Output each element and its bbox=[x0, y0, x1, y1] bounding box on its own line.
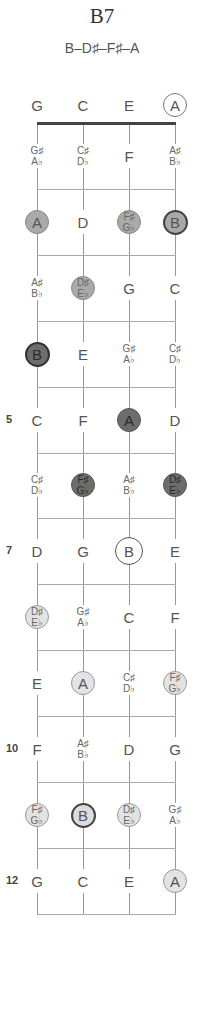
note-name: F♯ bbox=[123, 212, 134, 222]
fret-line bbox=[37, 584, 176, 585]
note-marker: F♯G♭ bbox=[117, 210, 141, 234]
note-name: D♯ bbox=[77, 278, 89, 288]
note-label: G bbox=[26, 93, 48, 117]
note-name: C bbox=[170, 281, 181, 296]
note-name: E♭ bbox=[31, 618, 43, 628]
note-name: A♭ bbox=[169, 816, 181, 826]
note-label: F bbox=[164, 605, 186, 629]
note-label: C♯D♭ bbox=[26, 473, 48, 497]
note-name: F bbox=[78, 413, 87, 428]
fret-line bbox=[37, 914, 176, 915]
note-label: A♯B♭ bbox=[118, 473, 140, 497]
note-name: G♯ bbox=[169, 805, 182, 815]
fret-number: 10 bbox=[6, 742, 22, 754]
note-marker: A bbox=[163, 93, 187, 117]
fret-number: 7 bbox=[6, 544, 22, 556]
fret-line bbox=[37, 716, 176, 717]
note-label: G♯A♭ bbox=[72, 605, 94, 629]
note-name: C♯ bbox=[169, 344, 181, 354]
note-name: A♯ bbox=[169, 146, 181, 156]
note-name: G bbox=[169, 742, 181, 757]
note-name: G bbox=[123, 281, 135, 296]
note-marker: F♯G♭ bbox=[163, 671, 187, 695]
note-name: G♯ bbox=[31, 146, 44, 156]
note-name: E bbox=[78, 347, 88, 362]
note-name: D♭ bbox=[169, 355, 181, 365]
note-name: C♯ bbox=[123, 673, 135, 683]
note-name: B bbox=[170, 215, 180, 230]
fret-line bbox=[37, 848, 176, 849]
note-name: F bbox=[32, 742, 41, 757]
note-label: G♯A♭ bbox=[118, 342, 140, 366]
note-name: G♯ bbox=[123, 344, 136, 354]
note-label: C♯D♭ bbox=[164, 342, 186, 366]
note-name: G♯ bbox=[77, 607, 90, 617]
note-name: C bbox=[124, 610, 135, 625]
note-label: G bbox=[26, 869, 48, 893]
note-marker: F♯G♭ bbox=[71, 473, 95, 497]
note-name: E♭ bbox=[123, 816, 135, 826]
note-name: G♭ bbox=[77, 486, 90, 496]
note-marker: B bbox=[25, 342, 50, 367]
note-marker: A bbox=[163, 869, 187, 893]
note-name: D♭ bbox=[123, 684, 135, 694]
note-name: D bbox=[124, 742, 135, 757]
note-marker: B bbox=[163, 210, 188, 235]
note-name: D♯ bbox=[169, 475, 181, 485]
note-marker: D♯E♭ bbox=[163, 473, 187, 497]
note-label: C bbox=[72, 869, 94, 893]
note-name: D♭ bbox=[77, 157, 89, 167]
note-label: F bbox=[72, 408, 94, 432]
note-name: A bbox=[78, 676, 88, 691]
note-name: G♭ bbox=[123, 223, 136, 233]
note-label: C bbox=[26, 408, 48, 432]
note-label: A♯B♭ bbox=[26, 276, 48, 300]
note-name: G bbox=[31, 98, 43, 113]
note-label: G♯A♭ bbox=[164, 803, 186, 827]
note-label: C bbox=[164, 276, 186, 300]
note-label: A♯B♭ bbox=[164, 144, 186, 168]
note-label: E bbox=[164, 539, 186, 563]
note-label: F bbox=[26, 737, 48, 761]
note-name: D♯ bbox=[31, 607, 43, 617]
note-name: E bbox=[124, 874, 134, 889]
note-label: D bbox=[164, 408, 186, 432]
note-name: E♭ bbox=[169, 486, 181, 496]
note-marker: D♯E♭ bbox=[25, 605, 49, 629]
note-name: A bbox=[32, 215, 42, 230]
note-name: A♭ bbox=[123, 355, 135, 365]
fret-line bbox=[37, 387, 176, 388]
note-name: B♭ bbox=[31, 289, 43, 299]
note-name: C bbox=[78, 98, 89, 113]
note-name: C♯ bbox=[77, 146, 89, 156]
note-label: G♯A♭ bbox=[26, 144, 48, 168]
note-label: E bbox=[118, 93, 140, 117]
note-label: G bbox=[72, 539, 94, 563]
note-name: F♯ bbox=[77, 475, 88, 485]
note-marker: B bbox=[115, 537, 143, 565]
note-marker: A bbox=[117, 408, 141, 432]
note-label: E bbox=[72, 342, 94, 366]
fret-number: 5 bbox=[6, 413, 22, 425]
note-name: F bbox=[124, 149, 133, 164]
note-label: C bbox=[118, 605, 140, 629]
note-name: G bbox=[31, 874, 43, 889]
note-name: G♭ bbox=[169, 684, 182, 694]
note-name: C♯ bbox=[31, 475, 43, 485]
note-name: E bbox=[124, 98, 134, 113]
fret-line bbox=[37, 650, 176, 651]
fret-line bbox=[37, 453, 176, 454]
note-label: D bbox=[118, 737, 140, 761]
note-name: B♭ bbox=[77, 750, 89, 760]
note-name: F bbox=[170, 610, 179, 625]
note-name: B bbox=[32, 347, 42, 362]
note-label: C♯D♭ bbox=[118, 671, 140, 695]
note-label: A♯B♭ bbox=[72, 737, 94, 761]
note-name: B♭ bbox=[123, 486, 135, 496]
note-name: D bbox=[170, 413, 181, 428]
note-name: F♯ bbox=[31, 805, 42, 815]
fret-line bbox=[37, 321, 176, 322]
note-marker: B bbox=[71, 803, 96, 828]
note-marker: A bbox=[25, 210, 49, 234]
note-name: A♭ bbox=[77, 618, 89, 628]
